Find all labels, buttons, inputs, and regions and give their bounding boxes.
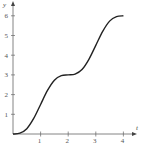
x-tick-label: 4 <box>121 137 125 143</box>
y-axis-arrow-icon <box>11 1 15 6</box>
data-curve <box>13 16 123 134</box>
x-axis-arrow-icon <box>132 132 137 136</box>
y-tick-label: 4 <box>5 52 9 60</box>
y-axis: y 123456 <box>2 1 15 134</box>
x-tick-label: 3 <box>93 137 97 143</box>
x-tick-label: 2 <box>65 137 69 143</box>
y-tick-label: 3 <box>5 71 9 79</box>
x-axis-label: t <box>136 124 139 132</box>
x-axis: t 1234 <box>13 124 139 143</box>
x-tick-label: 1 <box>38 137 42 143</box>
y-tick-label: 2 <box>5 91 9 99</box>
y-tick-label: 6 <box>5 12 9 20</box>
y-tick-label: 5 <box>5 32 9 40</box>
y-tick-label: 1 <box>5 111 9 119</box>
y-axis-label: y <box>2 1 7 9</box>
line-chart: y 123456 t 1234 <box>0 0 141 143</box>
